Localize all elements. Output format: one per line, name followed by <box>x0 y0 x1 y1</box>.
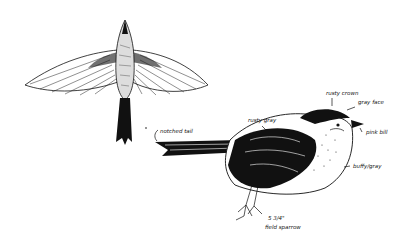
field-sparrow-sketch: notched tail rusty gray rusty crown gray… <box>0 0 403 252</box>
label-gray-face: gray face <box>358 99 384 106</box>
label-size: 5 3/4" <box>268 215 285 221</box>
left-wing <box>25 50 118 91</box>
perched-sparrow <box>155 109 364 220</box>
label-rusty-gray: rusty gray <box>248 117 277 124</box>
label-species: field sparrow <box>265 224 301 231</box>
label-pink-bill: pink bill <box>365 129 388 136</box>
label-buffy-gray: buffy/gray <box>353 163 382 170</box>
label-notched-tail: notched tail <box>160 128 193 134</box>
flying-sparrow <box>25 20 208 145</box>
label-rusty-crown: rusty crown <box>326 90 359 97</box>
perched-eye <box>336 123 339 126</box>
flying-tail <box>116 98 132 145</box>
perched-bill <box>351 120 364 128</box>
